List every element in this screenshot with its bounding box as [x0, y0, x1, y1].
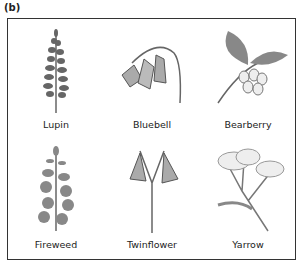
bluebell-illustration-icon — [112, 23, 192, 115]
plant-name: Bearberry — [200, 119, 296, 130]
yarrow-illustration-icon — [208, 143, 288, 235]
lupin-illustration-icon — [16, 23, 96, 115]
plant-cell-bluebell: Bluebell — [104, 19, 200, 139]
plant-name: Twinflower — [104, 239, 200, 250]
fireweed-illustration-icon — [16, 143, 96, 235]
plant-cell-yarrow: Yarrow — [200, 139, 296, 259]
plant-cell-bearberry: Bearberry — [200, 19, 296, 139]
plant-illustration-panel: Lupin Bluebell Bearberry — [7, 18, 296, 260]
plant-cell-fireweed: Fireweed — [8, 139, 104, 259]
figure-label: (b) — [4, 2, 20, 13]
plant-name: Bluebell — [104, 119, 200, 130]
bearberry-illustration-icon — [208, 23, 288, 115]
plant-cell-twinflower: Twinflower — [104, 139, 200, 259]
plant-name: Yarrow — [200, 239, 296, 250]
plant-name: Fireweed — [8, 239, 104, 250]
plant-cell-lupin: Lupin — [8, 19, 104, 139]
plant-name: Lupin — [8, 119, 104, 130]
twinflower-illustration-icon — [112, 143, 192, 235]
